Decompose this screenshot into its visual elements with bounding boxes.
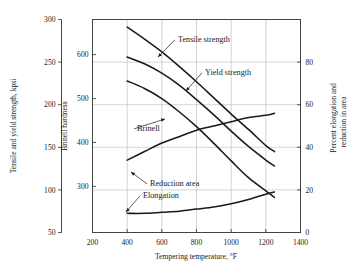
right-axis-title-line1: Percent elongation and [329,83,338,153]
x-axis-tick-label: 1000 [224,238,239,247]
x-axis-tick-label: 1400 [293,238,308,247]
brinell-axis-title: Brinell hardness [60,101,69,151]
left-axis-tick-label: 50 [48,228,56,237]
tempering-temperature-properties-chart: 50100150200250300 300400500600 020406080… [0,0,357,278]
chart-figure: 50100150200250300 300400500600 020406080… [0,0,357,278]
brinell-axis-tick-label: 500 [77,94,89,103]
left-axis-tick-label: 200 [44,100,56,109]
label-yield-strength: Yield strength [205,68,251,77]
x-axis-tick-label: 400 [121,238,133,247]
x-axis-tick-label: 200 [87,238,99,247]
left-axis-tick-label: 100 [44,186,56,195]
label-reduction-area: Reduction area [150,179,200,188]
x-axis-tick-label: 1200 [258,238,273,247]
label-brinell: Brinell [137,124,160,133]
left-axis-tick-label: 250 [44,58,56,67]
left-axis-tick-label: 150 [44,143,56,152]
brinell-axis-tick-label: 300 [77,182,89,191]
right-axis-tick-label: 40 [306,143,314,152]
right-axis-tick-label: 0 [306,228,310,237]
right-axis-tick-label: 80 [306,58,314,67]
brinell-axis-tick-label: 600 [77,50,89,59]
x-axis-title: Tempering temperature, °F [155,252,237,261]
x-axis-tick-label: 800 [191,238,203,247]
right-axis-tick-label: 60 [306,100,314,109]
left-axis-title: Tensile and yield strength, kpsi [9,79,18,174]
label-elongation: Elongation [143,191,179,200]
x-axis-tick-label: 600 [156,238,168,247]
left-axis-tick-label: 300 [44,15,56,24]
brinell-axis-tick-label: 400 [77,138,89,147]
right-axis-title-line2: reduction in area [339,96,348,148]
label-tensile-strength: Tensile strength [178,35,230,44]
right-axis-tick-label: 20 [306,186,314,195]
